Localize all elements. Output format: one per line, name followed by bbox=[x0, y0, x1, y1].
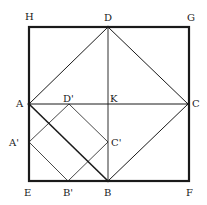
point-A-dot bbox=[28, 103, 31, 106]
segment-AB bbox=[29, 104, 108, 181]
label-H: H bbox=[25, 11, 34, 22]
label-C-prime: C' bbox=[111, 137, 121, 148]
segment-DC bbox=[108, 27, 188, 104]
label-G: G bbox=[187, 12, 195, 23]
point-B-dot bbox=[107, 180, 110, 183]
geometry-diagram: H D G A D' K C A' C' E B' B F bbox=[0, 0, 207, 205]
point-D-dot bbox=[107, 26, 110, 29]
label-C: C bbox=[192, 98, 200, 109]
label-F: F bbox=[186, 187, 193, 198]
label-B-prime: B' bbox=[63, 187, 73, 198]
label-E: E bbox=[24, 187, 31, 198]
label-D: D bbox=[104, 12, 112, 23]
label-A-prime: A' bbox=[8, 137, 19, 148]
label-A: A bbox=[15, 98, 24, 109]
label-D-prime: D' bbox=[63, 93, 74, 104]
label-B: B bbox=[104, 187, 111, 198]
label-K: K bbox=[110, 93, 118, 104]
point-C-dot bbox=[187, 103, 190, 106]
